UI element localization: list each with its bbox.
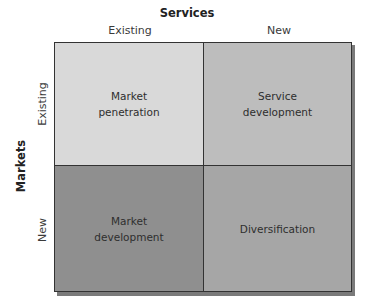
column-label-new: New <box>204 24 354 37</box>
cell-label-line1: Market <box>98 88 159 104</box>
row-label-existing: Existing <box>36 82 49 126</box>
matrix-grid: Market penetration Service development M… <box>54 42 352 292</box>
services-axis-title: Services <box>0 6 374 20</box>
cell-service-development: Service development <box>204 43 351 166</box>
cell-label-line1: Diversification <box>240 221 315 237</box>
cell-label-line2: development <box>94 229 163 245</box>
cell-diversification: Diversification <box>204 166 351 291</box>
cell-market-penetration: Market penetration <box>55 43 204 166</box>
row-label-new: New <box>36 218 49 242</box>
cell-label-line2: development <box>243 104 312 120</box>
cell-label-line2: penetration <box>98 104 159 120</box>
markets-axis-title: Markets <box>14 140 28 192</box>
column-label-existing: Existing <box>55 24 205 37</box>
cell-market-development: Market development <box>55 166 204 291</box>
cell-label-line1: Market <box>94 213 163 229</box>
cell-label-line1: Service <box>243 88 312 104</box>
